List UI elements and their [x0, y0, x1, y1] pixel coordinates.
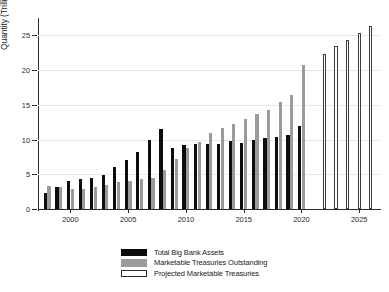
y-axis-tick-label: 20 [22, 66, 30, 75]
bar-marketable-treasuries [198, 142, 201, 209]
bar-projected-treasuries [358, 33, 361, 209]
x-axis-tick [301, 209, 302, 213]
legend-label: Projected Marketable Treasuries [154, 269, 259, 278]
y-axis-tick [32, 35, 37, 36]
x-axis-tick-label: 2025 [351, 215, 367, 224]
bar-projected-treasuries [346, 40, 349, 209]
gridline [38, 70, 380, 71]
y-axis-tick-label: 25 [22, 31, 30, 40]
bar-marketable-treasuries [232, 124, 235, 209]
x-axis-tick [186, 209, 187, 213]
bar-marketable-treasuries [255, 114, 258, 209]
gridline [38, 35, 380, 36]
bar-marketable-treasuries [244, 119, 247, 209]
bar-marketable-treasuries [71, 189, 74, 209]
y-axis-tick-label: 15 [22, 100, 30, 109]
gridline [38, 105, 380, 106]
y-axis-tick [32, 70, 37, 71]
y-axis-tick [32, 140, 37, 141]
bar-marketable-treasuries [151, 178, 154, 209]
bar-marketable-treasuries [209, 133, 212, 209]
y-axis-tick [32, 174, 37, 175]
y-axis-tick [32, 209, 37, 210]
chart-legend: Total Big Bank AssetsMarketable Treasuri… [121, 247, 267, 279]
y-axis-tick [32, 105, 37, 106]
legend-label: Marketable Treasuries Outstanding [154, 258, 267, 267]
legend-item[interactable]: Total Big Bank Assets [121, 247, 267, 258]
x-axis-tick [70, 209, 71, 213]
bar-projected-treasuries [369, 26, 372, 209]
bar-marketable-treasuries [117, 182, 120, 209]
bar-marketable-treasuries [47, 186, 50, 209]
bar-marketable-treasuries [290, 95, 293, 209]
bar-marketable-treasuries [267, 110, 270, 209]
bar-projected-treasuries [334, 46, 337, 209]
y-axis-tick-label: 0 [26, 205, 30, 214]
bar-marketable-treasuries [186, 148, 189, 209]
legend-item[interactable]: Projected Marketable Treasuries [121, 268, 267, 279]
legend-swatch-open [121, 270, 147, 278]
legend-swatch-black [121, 249, 147, 257]
bar-chart-figure: Quantity (Trillions USD) 0510152025 2000… [0, 0, 389, 292]
bar-marketable-treasuries [59, 187, 62, 209]
legend-swatch-gray [121, 259, 147, 267]
bar-marketable-treasuries [279, 102, 282, 209]
y-axis-tick-label: 10 [22, 135, 30, 144]
bar-marketable-treasuries [82, 189, 85, 209]
x-axis-tick-label: 2015 [236, 215, 252, 224]
y-axis-tick-label: 5 [26, 170, 30, 179]
x-axis-tick [359, 209, 360, 213]
bar-marketable-treasuries [140, 179, 143, 209]
x-axis-ticks: 200020052010201520202025 [38, 209, 381, 229]
x-axis-tick-label: 2000 [62, 215, 78, 224]
bar-marketable-treasuries [94, 187, 97, 209]
bar-marketable-treasuries [302, 65, 305, 209]
bar-marketable-treasuries [128, 181, 131, 209]
bar-marketable-treasuries [175, 159, 178, 209]
bar-marketable-treasuries [221, 128, 224, 209]
bar-marketable-treasuries [163, 170, 166, 209]
x-axis-tick-label: 2005 [120, 215, 136, 224]
legend-item[interactable]: Marketable Treasuries Outstanding [121, 258, 267, 269]
x-axis-tick [244, 209, 245, 213]
x-axis-tick-label: 2010 [178, 215, 194, 224]
x-axis-tick [128, 209, 129, 213]
plot-area: 0510152025 [38, 18, 380, 209]
y-axis-title: Quantity (Trillions USD) [0, 0, 9, 50]
bar-marketable-treasuries [105, 185, 108, 209]
legend-label: Total Big Bank Assets [154, 248, 224, 257]
x-axis-tick-label: 2020 [293, 215, 309, 224]
bar-projected-treasuries [323, 54, 326, 209]
